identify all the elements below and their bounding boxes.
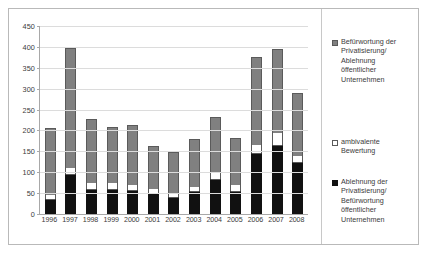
bar-segment-befuerwortung-privatisierung	[230, 138, 241, 185]
gridline	[40, 68, 308, 69]
bar-slot	[246, 26, 267, 214]
legend-swatch-white-icon	[332, 140, 338, 146]
x-axis: 1996199719981999200020012002200320042005…	[39, 216, 307, 232]
gridline	[40, 110, 308, 111]
stacked-bar[interactable]	[86, 119, 97, 214]
bar-segment-befuerwortung-privatisierung	[45, 128, 56, 195]
bar-slot	[143, 26, 164, 214]
x-axis-tick-label: 2002	[163, 216, 184, 232]
bar-segment-ablehnung-privatisierung	[168, 197, 179, 214]
y-axis-tick-mark	[37, 68, 40, 69]
bar-segment-befuerwortung-privatisierung	[127, 125, 138, 185]
bar-segment-befuerwortung-privatisierung	[107, 127, 118, 183]
y-axis-tick-mark	[37, 130, 40, 131]
x-axis-tick-label: 2004	[204, 216, 225, 232]
y-axis-tick-label: 250	[9, 105, 35, 114]
chart-legend: Befürwortung derPrivatisierung/Ablehnung…	[321, 9, 420, 244]
stacked-bar[interactable]	[230, 138, 241, 214]
legend-label-line: Bewertung	[341, 146, 375, 155]
legend-item[interactable]: Ablehnung derPrivatisierung/Befürwortung…	[332, 177, 420, 224]
y-axis-tick-label: 450	[9, 22, 35, 31]
bar-segment-befuerwortung-privatisierung	[292, 93, 303, 156]
legend-label-line: Unternehmen	[341, 75, 385, 84]
y-axis-tick-label: 400	[9, 42, 35, 51]
bar-segment-ambivalente-bewertung	[272, 133, 283, 146]
gridline	[40, 193, 308, 194]
legend-item-label: Befürwortung derPrivatisierung/Ablehnung…	[341, 37, 396, 84]
bar-segment-ablehnung-privatisierung	[292, 162, 303, 214]
y-axis-tick-mark	[37, 47, 40, 48]
bar-slot	[205, 26, 226, 214]
bar-slot	[40, 26, 61, 214]
y-axis: 450400350300250200150100500	[9, 9, 37, 244]
stacked-bar[interactable]	[272, 49, 283, 214]
bar-slot	[122, 26, 143, 214]
bar-slot	[267, 26, 288, 214]
legend-swatch-gray-icon	[332, 40, 338, 46]
y-axis-tick-mark	[37, 172, 40, 173]
bar-segment-ablehnung-privatisierung	[272, 145, 283, 214]
legend-label-line: Befürwortung der	[341, 37, 396, 46]
bar-slot	[287, 26, 308, 214]
bar-segment-ablehnung-privatisierung	[230, 191, 241, 214]
legend-label-line: Ablehnung	[341, 56, 375, 65]
legend-label-line: öffentlicher	[341, 65, 376, 74]
x-axis-tick-label: 1997	[60, 216, 81, 232]
x-axis-tick-label: 1999	[101, 216, 122, 232]
bar-segment-befuerwortung-privatisierung	[210, 117, 221, 173]
x-axis-tick-label: 2007	[266, 216, 287, 232]
bar-segment-befuerwortung-privatisierung	[189, 139, 200, 187]
y-axis-tick-label: 50	[9, 189, 35, 198]
stacked-bar[interactable]	[168, 152, 179, 214]
y-axis-tick-mark	[37, 193, 40, 194]
legend-label-line: Unternehmen	[341, 215, 385, 224]
legend-swatch-black-icon	[332, 180, 338, 186]
x-axis-tick-label: 2001	[142, 216, 163, 232]
bar-slot	[81, 26, 102, 214]
legend-item[interactable]: ambivalenteBewertung	[332, 137, 420, 156]
bar-group	[40, 26, 308, 214]
legend-label-line: ambivalente	[341, 137, 380, 146]
y-axis-tick-mark	[37, 214, 40, 215]
stacked-bar[interactable]	[251, 57, 262, 214]
bar-slot	[102, 26, 123, 214]
legend-label-line: öffentlicher	[341, 205, 376, 214]
stacked-bar[interactable]	[148, 146, 159, 214]
y-axis-tick-label: 100	[9, 168, 35, 177]
x-axis-tick-label: 2008	[286, 216, 307, 232]
stacked-bar[interactable]	[45, 128, 56, 214]
x-axis-tick-label: 1998	[80, 216, 101, 232]
bar-segment-befuerwortung-privatisierung	[148, 146, 159, 189]
bar-segment-ablehnung-privatisierung	[210, 179, 221, 215]
x-axis-tick-label: 2003	[183, 216, 204, 232]
x-axis-tick-label: 2000	[121, 216, 142, 232]
bar-segment-ablehnung-privatisierung	[65, 174, 76, 214]
legend-label-line: Privatisierung/	[341, 46, 387, 55]
legend-item[interactable]: Befürwortung derPrivatisierung/Ablehnung…	[332, 37, 420, 84]
stacked-bar[interactable]	[189, 139, 200, 214]
legend-item-label: Ablehnung derPrivatisierung/Befürwortung…	[341, 177, 388, 224]
gridline	[40, 151, 308, 152]
bar-slot	[184, 26, 205, 214]
stacked-bar[interactable]	[292, 93, 303, 214]
legend-label-line: Ablehnung der	[341, 177, 388, 186]
legend-label-line: Privatisierung/	[341, 186, 387, 195]
gridline	[40, 130, 308, 131]
stacked-bar[interactable]	[127, 125, 138, 214]
gridline	[40, 26, 308, 27]
y-axis-tick-mark	[37, 110, 40, 111]
y-axis-tick-mark	[37, 151, 40, 152]
bar-segment-ablehnung-privatisierung	[251, 153, 262, 214]
x-axis-tick-label: 1996	[39, 216, 60, 232]
stacked-bar[interactable]	[107, 127, 118, 214]
y-axis-tick-mark	[37, 89, 40, 90]
y-axis-tick-label: 300	[9, 84, 35, 93]
y-axis-tick-label: 350	[9, 63, 35, 72]
bar-slot	[61, 26, 82, 214]
gridline	[40, 47, 308, 48]
plot-area	[39, 26, 308, 215]
y-axis-tick-mark	[37, 26, 40, 27]
chart-frame: 450400350300250200150100500 199619971998…	[8, 8, 419, 245]
x-axis-tick-label: 2005	[224, 216, 245, 232]
plot-area-wrapper: 450400350300250200150100500 199619971998…	[9, 9, 314, 244]
